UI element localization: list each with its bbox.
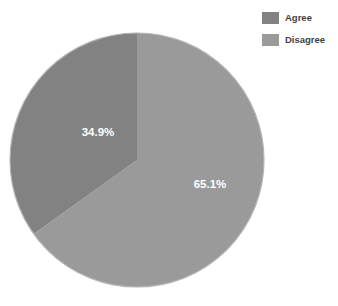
pie-slice-label-disagree: 65.1% xyxy=(194,178,227,190)
legend-item-agree[interactable]: Agree xyxy=(262,8,338,28)
legend-swatch-disagree xyxy=(262,34,279,46)
legend-swatch-agree xyxy=(262,12,279,24)
pie-slice-label-agree: 34.9% xyxy=(82,126,115,138)
pie-slices xyxy=(10,33,264,287)
legend-item-disagree[interactable]: Disagree xyxy=(262,30,338,50)
legend-label-disagree: Disagree xyxy=(285,35,325,45)
legend-label-agree: Agree xyxy=(285,13,312,23)
chart-legend: Agree Disagree xyxy=(262,8,338,52)
pie-chart: 34.9% 65.1% Agree Disagree xyxy=(0,0,338,306)
